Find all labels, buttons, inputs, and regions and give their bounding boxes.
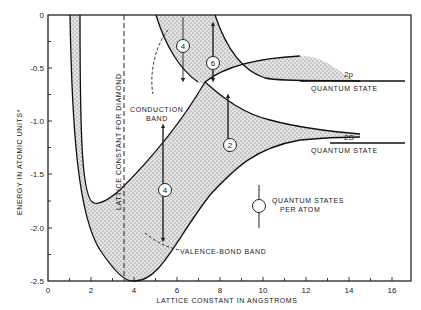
legend-label-line2: PER ATOM (280, 206, 320, 213)
svg-text:-2.0: -2.0 (30, 224, 44, 233)
svg-text:10: 10 (259, 286, 268, 295)
conduction-label-line2: BAND (146, 115, 168, 122)
valence-label: VALENCE-BOND BAND (180, 248, 266, 255)
count-upper-right: 6 (211, 59, 216, 68)
state-2p-sublabel: QUANTUM STATE (311, 85, 378, 93)
svg-text:16: 16 (388, 286, 397, 295)
state-2p-label: 2p (344, 70, 353, 79)
svg-text:2: 2 (89, 286, 94, 295)
svg-text:-1.5: -1.5 (30, 170, 44, 179)
band-structure-chart: LATTICE CONSTANT FOR DIAMOND 4 6 2 4 CON… (0, 0, 421, 310)
state-2s-label: 2S (344, 133, 354, 142)
y-axis-label: ENERGY IN ATOMIC UNITS* (16, 109, 23, 215)
svg-text:-2.5: -2.5 (30, 277, 44, 286)
count-lower-right: 2 (228, 141, 233, 150)
svg-text:0: 0 (46, 286, 51, 295)
svg-text:-1.0: -1.0 (30, 117, 44, 126)
x-axis-label: LATTICE CONSTANT IN ANGSTROMS (156, 297, 297, 304)
count-upper-left: 4 (181, 42, 186, 51)
svg-text:6: 6 (175, 286, 180, 295)
legend-label-line1: QUANTUM STATES (272, 197, 344, 205)
svg-text:14: 14 (345, 286, 354, 295)
svg-text:4: 4 (132, 286, 137, 295)
count-lower-left: 4 (163, 186, 168, 195)
x-tick-labels: 0 2 4 6 8 10 12 14 16 (46, 286, 397, 295)
svg-text:0: 0 (40, 11, 45, 20)
svg-text:8: 8 (218, 286, 223, 295)
state-2s-sublabel: QUANTUM STATE (311, 147, 378, 155)
svg-text:-0.5: -0.5 (30, 64, 44, 73)
svg-text:12: 12 (302, 286, 311, 295)
legend: QUANTUM STATES PER ATOM (253, 185, 344, 228)
diamond-label: LATTICE CONSTANT FOR DIAMOND (115, 73, 122, 210)
conduction-label-line1: CONDUCTION (130, 106, 183, 113)
y-tick-labels: 0 -0.5 -1.0 -1.5 -2.0 -2.5 (30, 11, 44, 286)
